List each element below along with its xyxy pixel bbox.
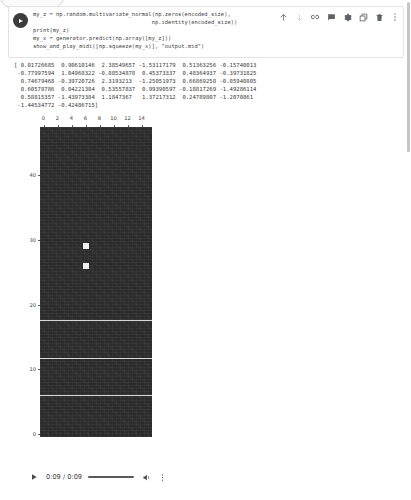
move-cell-up-icon[interactable]: [278, 12, 288, 22]
cell-settings-icon[interactable]: [342, 12, 352, 22]
run-cell-button[interactable]: [13, 13, 28, 28]
x-tick-label: 6: [84, 115, 87, 121]
heatmap-image: [40, 127, 152, 437]
code-editor[interactable]: my_z = np.random.multivariate_normal(np.…: [33, 10, 283, 50]
heatmap-background: [40, 127, 152, 437]
stdout-output: [ 0.01726685 0.90610146 2.38549657 -1.53…: [14, 61, 394, 109]
audio-player[interactable]: 0:09 / 0:09: [28, 466, 200, 488]
output-line: 0.74679468 -0.39720726 2.3193213 -1.2505…: [14, 77, 394, 85]
delete-cell-icon[interactable]: [374, 12, 384, 22]
y-tick-label: 40: [29, 172, 36, 178]
cell-toolbar: [278, 12, 400, 22]
x-tick-label: 14: [138, 115, 145, 121]
output-line: [ 0.01726685 0.90610146 2.38549657 -1.53…: [14, 61, 394, 69]
x-tick-label: 0: [42, 115, 45, 121]
play-icon: [19, 19, 23, 23]
heatmap-plot-area: [40, 127, 152, 437]
code-line: np.identity(encoded_size)): [33, 18, 283, 26]
more-options-icon[interactable]: [390, 12, 400, 22]
y-tick-label: 30: [29, 237, 36, 243]
x-tick-label: 4: [70, 115, 73, 121]
heatmap-active-cell: [83, 263, 89, 269]
output-line: 0.58815357 -1.43973384 1.1847367 1.37217…: [14, 93, 394, 101]
y-tick-label: 10: [29, 366, 36, 372]
code-line: print(my_z): [33, 26, 283, 34]
audio-more-options-icon[interactable]: [158, 471, 166, 483]
output-line: -0.77997594 1.04968322 -0.88534878 0.453…: [14, 69, 394, 77]
link-to-cell-icon[interactable]: [310, 12, 320, 22]
output-line: 0.60578786 0.04221384 0.53557837 0.99390…: [14, 85, 394, 93]
audio-play-button[interactable]: [28, 471, 40, 483]
x-tick-label: 2: [56, 115, 59, 121]
heatmap-active-cell: [83, 243, 89, 249]
move-cell-down-icon[interactable]: [294, 12, 304, 22]
audio-progress-bar[interactable]: [88, 476, 134, 478]
mirror-cell-icon[interactable]: [358, 12, 368, 22]
volume-icon[interactable]: [140, 471, 152, 483]
code-line: my_z = np.random.multivariate_normal(np.…: [33, 10, 283, 18]
pianoroll-figure: 02468101214 010203040: [14, 115, 174, 445]
add-comment-icon[interactable]: [326, 12, 336, 22]
heatmap-row-band: [40, 358, 152, 359]
x-axis: 02468101214: [40, 115, 152, 127]
heatmap-row-band: [40, 395, 152, 396]
page-scrollbar[interactable]: [406, 0, 411, 500]
x-tick-label: 8: [98, 115, 101, 121]
code-line: my_x = generator.predict(np.array([my_z]…: [33, 34, 283, 42]
audio-time-display: 0:09 / 0:09: [46, 473, 82, 481]
x-tick-label: 12: [124, 115, 131, 121]
code-line: show_and_play_midi([np.squeeze(my_x)], "…: [33, 42, 283, 50]
y-tick-label: 20: [29, 302, 36, 308]
x-tick-label: 10: [110, 115, 117, 121]
y-tick-label: 0: [33, 431, 36, 437]
heatmap-row-band: [40, 320, 152, 321]
output-line: -1.44534772 -0.42486715]: [14, 101, 394, 109]
notebook-code-cell[interactable]: my_z = np.random.multivariate_normal(np.…: [8, 6, 404, 58]
y-axis: 010203040: [14, 127, 40, 437]
scrollbar-thumb[interactable]: [407, 2, 410, 152]
